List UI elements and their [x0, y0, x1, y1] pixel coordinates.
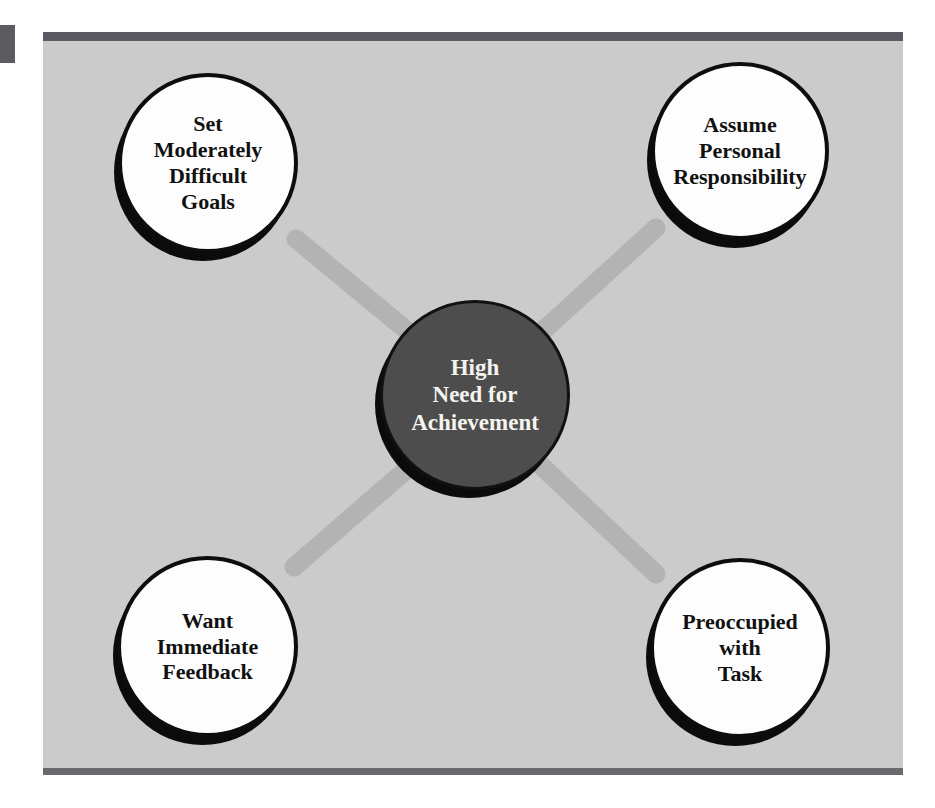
- connector-top-right: [533, 228, 656, 340]
- connector-bottom-left: [294, 457, 421, 567]
- figure-canvas: SetModeratelyDifficultGoals AssumePerson…: [0, 0, 935, 808]
- connector-top-left: [296, 239, 422, 343]
- node-high-need-for-achievement[interactable]: HighNeed forAchievement: [380, 300, 570, 490]
- node-label: SetModeratelyDifficultGoals: [154, 111, 263, 215]
- node-label: AssumePersonalResponsibility: [673, 112, 806, 190]
- node-set-moderately-difficult-goals[interactable]: SetModeratelyDifficultGoals: [118, 73, 298, 253]
- node-preoccupied-with-task[interactable]: PreoccupiedwithTask: [650, 558, 830, 738]
- center-node-label: HighNeed forAchievement: [411, 354, 539, 435]
- diagram-panel: SetModeratelyDifficultGoals AssumePerson…: [43, 32, 903, 775]
- node-assume-personal-responsibility[interactable]: AssumePersonalResponsibility: [651, 62, 829, 240]
- node-want-immediate-feedback[interactable]: WantImmediateFeedback: [117, 556, 298, 737]
- node-label: WantImmediateFeedback: [157, 608, 258, 686]
- connector-bottom-right: [532, 457, 656, 574]
- node-label: PreoccupiedwithTask: [682, 609, 798, 687]
- page-edge-marker: [0, 25, 15, 63]
